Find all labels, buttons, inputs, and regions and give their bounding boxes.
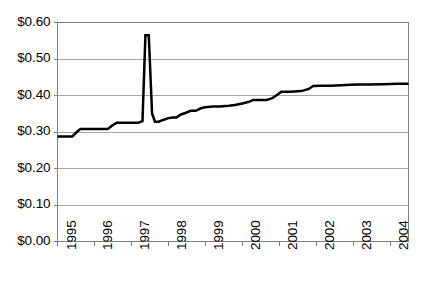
- y-axis-ticks: [54, 23, 58, 242]
- x-axis-label: 2001: [285, 220, 300, 250]
- x-axis-label: 1999: [211, 220, 226, 250]
- y-axis-label: $0.60: [17, 14, 50, 29]
- x-axis-label: 1996: [100, 220, 115, 250]
- data-series-price: [58, 35, 409, 136]
- series-line: [58, 35, 409, 136]
- x-axis-label: 2004: [396, 220, 411, 250]
- y-axis-label: $0.10: [17, 196, 50, 211]
- x-axis-label: 2002: [322, 220, 337, 250]
- x-axis-label: 2000: [248, 220, 263, 250]
- y-axis-label: $0.30: [17, 123, 50, 138]
- gridlines: [58, 23, 409, 242]
- line-chart: $0.60$0.50$0.40$0.30$0.20$0.10$0.00 1995…: [0, 0, 421, 298]
- y-axis-label: $0.00: [17, 233, 50, 248]
- chart-canvas: [0, 0, 421, 298]
- x-axis-label: 2003: [359, 220, 374, 250]
- y-axis-label: $0.20: [17, 160, 50, 175]
- x-axis-label: 1997: [137, 220, 152, 250]
- y-axis-label: $0.50: [17, 50, 50, 65]
- x-axis-label: 1998: [174, 220, 189, 250]
- x-axis-label: 1995: [64, 220, 79, 250]
- y-axis-label: $0.40: [17, 87, 50, 102]
